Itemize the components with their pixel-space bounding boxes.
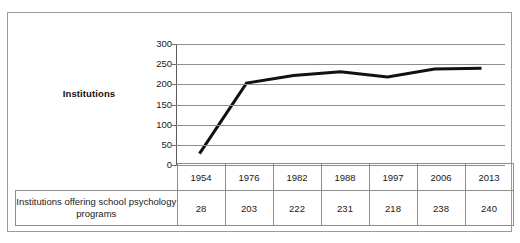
gridline-150: [176, 105, 505, 106]
table-year-cell: 1976: [225, 164, 273, 191]
data-table-wrapper: 1954197619821988199720062013 Institution…: [15, 163, 505, 225]
gridline-300: [176, 44, 505, 45]
table-value-cell: 28: [177, 191, 225, 226]
table-value-cell: 231: [321, 191, 369, 226]
line-chart: 300250200150100500: [140, 36, 515, 172]
table-row-years: 1954197619821988199720062013: [16, 164, 514, 191]
y-tick-label-50: 50: [140, 140, 172, 150]
table-year-cell: 1982: [273, 164, 321, 191]
y-tick-label-200: 200: [140, 79, 172, 89]
table-value-cell: 238: [417, 191, 465, 226]
y-axis-tick-labels: 300250200150100500: [140, 36, 172, 172]
y-tick-label-250: 250: [140, 59, 172, 69]
y-tick-300: [172, 44, 176, 45]
gridline-100: [176, 125, 505, 126]
table-value-cell: 203: [225, 191, 273, 226]
table-year-cell: 2013: [465, 164, 513, 191]
table-year-cell: 1954: [177, 164, 225, 191]
y-tick-label-100: 100: [140, 120, 172, 130]
table-year-cell: 1988: [321, 164, 369, 191]
table-year-cell: 2006: [417, 164, 465, 191]
table-year-cell: 1997: [369, 164, 417, 191]
table-value-cell: 218: [369, 191, 417, 226]
data-table: 1954197619821988199720062013 Institution…: [15, 163, 514, 226]
y-tick-50: [172, 145, 176, 146]
gridline-250: [176, 64, 505, 65]
figure-container: Institutions 300250200150100500 19541976…: [0, 0, 520, 243]
gridline-200: [176, 84, 505, 85]
table-value-cell: 222: [273, 191, 321, 226]
table-corner-blank: [16, 164, 178, 191]
table-value-cell: 240: [465, 191, 513, 226]
y-tick-label-150: 150: [140, 100, 172, 110]
table-row-values: Institutions offering school psychology …: [16, 191, 514, 226]
y-tick-250: [172, 64, 176, 65]
y-tick-200: [172, 84, 176, 85]
y-tick-label-300: 300: [140, 39, 172, 49]
plot-area: [176, 36, 515, 172]
y-tick-150: [172, 105, 176, 106]
gridline-50: [176, 145, 505, 146]
y-tick-100: [172, 125, 176, 126]
table-row-label: Institutions offering school psychology …: [16, 191, 178, 226]
